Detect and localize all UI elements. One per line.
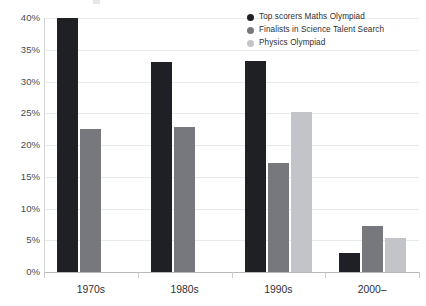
bar-slot: [174, 18, 195, 272]
y-axis-tick-label: 0%: [4, 267, 40, 277]
bar-slot: [197, 18, 218, 272]
x-axis-category-label: 1990s: [232, 272, 326, 306]
y-axis-tick-label: 25%: [4, 108, 40, 118]
bar-chart: Top scorers Maths OlympiadFinalists in S…: [0, 0, 426, 306]
x-axis-category-label: 1980s: [138, 272, 232, 306]
bar-group: [325, 18, 419, 272]
legend-item[interactable]: Finalists in Science Talent Search: [247, 24, 384, 36]
bar[interactable]: [57, 18, 78, 272]
chart-legend: Top scorers Maths OlympiadFinalists in S…: [247, 11, 384, 50]
bar-slot: [339, 18, 360, 272]
x-axis-labels: 1970s1980s1990s2000–: [44, 272, 419, 306]
bar-slot: [268, 18, 289, 272]
plot-area: [44, 18, 419, 272]
legend-item[interactable]: Physics Olympiad: [247, 37, 384, 49]
bar[interactable]: [268, 163, 289, 272]
y-axis-tick-label: 15%: [4, 172, 40, 182]
bar[interactable]: [174, 127, 195, 272]
x-axis: 1970s1980s1990s2000–: [44, 272, 419, 306]
bar[interactable]: [291, 112, 312, 272]
crop-artifact: [93, 0, 100, 4]
y-axis-tick-label: 30%: [4, 77, 40, 87]
bar[interactable]: [385, 238, 406, 272]
bar-groups: [44, 18, 419, 272]
legend-swatch-circle-icon: [247, 27, 254, 34]
bar[interactable]: [80, 129, 101, 272]
bar-slot: [245, 18, 266, 272]
bar-group: [138, 18, 232, 272]
bar-slot: [103, 18, 124, 272]
bar[interactable]: [339, 253, 360, 272]
legend-item[interactable]: Top scorers Maths Olympiad: [247, 11, 384, 23]
y-axis-labels: 0%5%10%15%20%25%30%35%40%: [0, 18, 40, 272]
bar-slot: [291, 18, 312, 272]
bar-slot: [151, 18, 172, 272]
legend-item-label: Finalists in Science Talent Search: [259, 25, 384, 35]
bar[interactable]: [151, 62, 172, 272]
bar-slot: [57, 18, 78, 272]
legend-swatch-circle-icon: [247, 40, 254, 47]
bar[interactable]: [362, 226, 383, 272]
bar-group: [44, 18, 138, 272]
y-axis-tick-label: 5%: [4, 235, 40, 245]
bar[interactable]: [245, 61, 266, 272]
y-axis-tick-label: 35%: [4, 45, 40, 55]
legend-item-label: Physics Olympiad: [259, 38, 325, 48]
y-axis-tick-label: 20%: [4, 140, 40, 150]
y-axis-tick-label: 10%: [4, 204, 40, 214]
bar-slot: [362, 18, 383, 272]
y-axis-tick-label: 40%: [4, 13, 40, 23]
bar-slot: [80, 18, 101, 272]
bar-group: [232, 18, 326, 272]
x-axis-tick: [419, 272, 420, 278]
x-axis-category-label: 1970s: [44, 272, 138, 306]
legend-item-label: Top scorers Maths Olympiad: [259, 12, 365, 22]
x-axis-category-label: 2000–: [325, 272, 419, 306]
bar-slot: [385, 18, 406, 272]
legend-swatch-circle-icon: [247, 14, 254, 21]
